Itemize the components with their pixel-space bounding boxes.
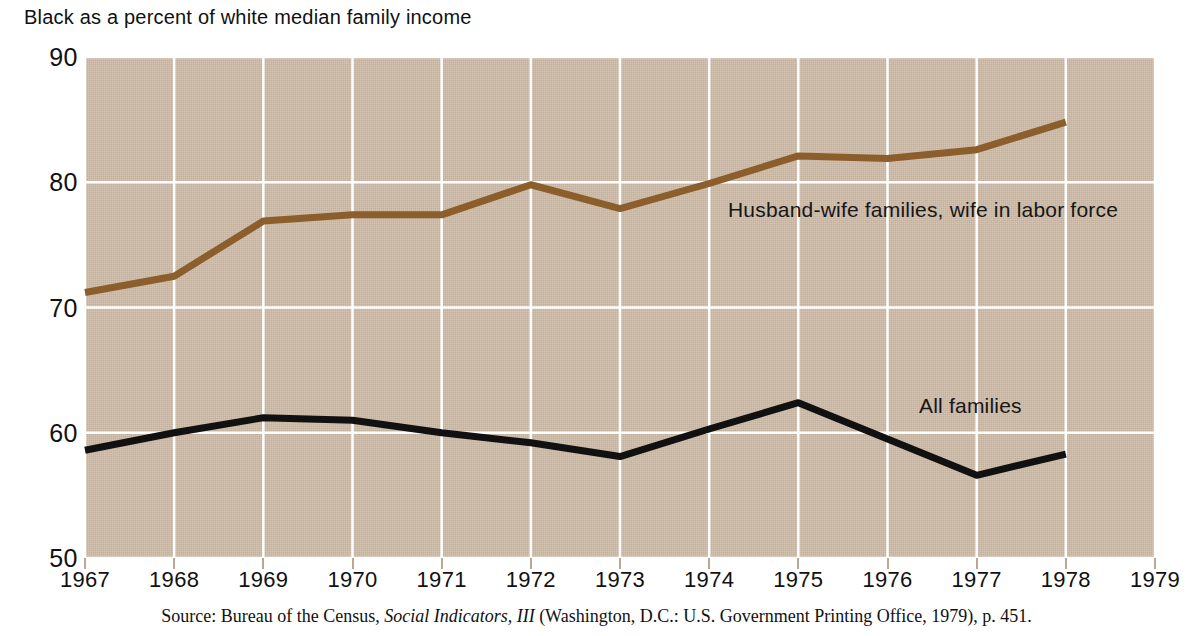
x-tick-label: 1975: [748, 567, 848, 593]
x-tick-label: 1979: [1105, 567, 1193, 593]
x-tick-label: 1972: [481, 567, 581, 593]
x-tick-label: 1976: [838, 567, 938, 593]
source-italic-title: Social Indicators, III: [384, 606, 534, 626]
chart-figure: Black as a percent of white median famil…: [0, 0, 1193, 636]
x-tick-label: 1969: [213, 567, 313, 593]
series-label-husband-wife: Husband-wife families, wife in labor for…: [728, 198, 1118, 222]
source-suffix: (Washington, D.C.: U.S. Government Print…: [535, 606, 1032, 626]
x-tick-label: 1977: [927, 567, 1027, 593]
x-tick-label: 1974: [659, 567, 759, 593]
x-tick-label: 1971: [392, 567, 492, 593]
x-axis-ticks: 1967196819691970197119721973197419751976…: [0, 0, 1193, 636]
x-tick-label: 1973: [570, 567, 670, 593]
x-tick-label: 1978: [1016, 567, 1116, 593]
source-note: Source: Bureau of the Census, Social Ind…: [0, 606, 1193, 627]
x-tick-label: 1970: [303, 567, 403, 593]
x-tick-label: 1967: [35, 567, 135, 593]
series-label-all-families: All families: [919, 394, 1022, 418]
source-prefix: Source: Bureau of the Census,: [161, 606, 384, 626]
x-tick-label: 1968: [124, 567, 224, 593]
